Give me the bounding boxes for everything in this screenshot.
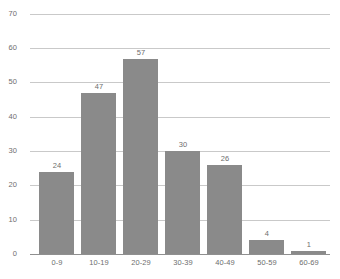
axis-baseline xyxy=(30,254,330,255)
bar-slot-0: 24 xyxy=(36,14,78,254)
bar-slot-3: 30 xyxy=(162,14,204,254)
x-axis-tick-label-6: 60-69 xyxy=(288,258,330,267)
y-axis-tick-label-70: 70 xyxy=(0,10,17,18)
bar-60-69[interactable] xyxy=(291,251,326,254)
bar-slot-1: 47 xyxy=(78,14,120,254)
x-axis-tick-label-1: 10-19 xyxy=(78,258,120,267)
bar-20-29[interactable] xyxy=(123,59,158,254)
x-axis-tick-label-5: 50-59 xyxy=(246,258,288,267)
bar-40-49[interactable] xyxy=(207,165,242,254)
bar-slot-6: 1 xyxy=(288,14,330,254)
y-axis-tick-label-40: 40 xyxy=(0,113,17,121)
bar-slot-4: 26 xyxy=(204,14,246,254)
bar-10-19[interactable] xyxy=(81,93,116,254)
bar-value-label-3: 30 xyxy=(162,141,204,149)
y-axis-tick-label-10: 10 xyxy=(0,216,17,224)
y-axis-tick-label-50: 50 xyxy=(0,78,17,86)
bar-value-label-2: 57 xyxy=(120,49,162,57)
bar-value-label-6: 1 xyxy=(288,241,330,249)
y-axis-tick-label-60: 60 xyxy=(0,44,17,52)
bars-layer: 24 47 57 30 26 4 1 xyxy=(30,14,330,254)
bar-value-label-5: 4 xyxy=(246,230,288,238)
x-axis-labels: 0-9 10-19 20-29 30-39 40-49 50-59 60-69 xyxy=(30,258,330,270)
bar-0-9[interactable] xyxy=(39,172,74,254)
x-axis-tick-label-4: 40-49 xyxy=(204,258,246,267)
y-axis-tick-label-20: 20 xyxy=(0,181,17,189)
bar-value-label-1: 47 xyxy=(78,83,120,91)
x-axis-tick-label-2: 20-29 xyxy=(120,258,162,267)
bar-chart: 70 60 50 40 30 20 10 0 24 47 57 30 26 xyxy=(0,0,340,279)
y-axis-tick-label-0: 0 xyxy=(0,250,17,258)
bar-50-59[interactable] xyxy=(249,240,284,254)
y-axis-tick-label-30: 30 xyxy=(0,147,17,155)
bar-30-39[interactable] xyxy=(165,151,200,254)
x-axis-tick-label-0: 0-9 xyxy=(36,258,78,267)
bar-value-label-0: 24 xyxy=(36,162,78,170)
bar-slot-5: 4 xyxy=(246,14,288,254)
x-axis-tick-label-3: 30-39 xyxy=(162,258,204,267)
bar-slot-2: 57 xyxy=(120,14,162,254)
bar-value-label-4: 26 xyxy=(204,155,246,163)
